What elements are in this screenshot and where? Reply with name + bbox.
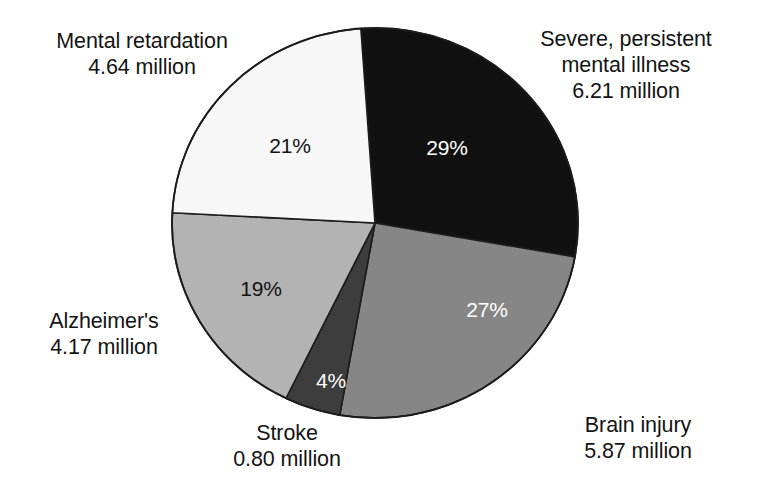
callout-mental-retardation-value: 4.64 million (14, 54, 270, 80)
slice-percent-mental-retardation: 21% (269, 134, 310, 158)
slice-percent-brain-injury: 27% (466, 298, 507, 322)
callout-severe-mental-illness-value: 6.21 million (500, 78, 752, 104)
callout-mental-retardation-name: Mental retardation (14, 28, 270, 54)
pie-chart: 29% 27% 4% 19% 21% Mental retardation 4.… (0, 0, 758, 492)
callout-mental-retardation: Mental retardation 4.64 million (14, 28, 270, 80)
callout-alzheimers-name: Alzheimer's (6, 308, 202, 334)
callout-stroke-name: Stroke (182, 420, 392, 446)
slice-percent-alzheimers: 19% (240, 277, 281, 301)
callout-alzheimers: Alzheimer's 4.17 million (6, 308, 202, 360)
slice-percent-stroke: 4% (316, 369, 346, 393)
pie-slice-brain-injury (340, 223, 575, 418)
slice-percent-severe-mental-illness: 29% (426, 136, 467, 160)
callout-stroke: Stroke 0.80 million (182, 420, 392, 472)
callout-severe-mental-illness: Severe, persistent mental illness 6.21 m… (500, 26, 752, 105)
callout-stroke-value: 0.80 million (182, 446, 392, 472)
callout-alzheimers-value: 4.17 million (6, 334, 202, 360)
callout-brain-injury-value: 5.87 million (530, 438, 746, 464)
callout-brain-injury-name: Brain injury (530, 412, 746, 438)
callout-severe-mental-illness-name-1: Severe, persistent (500, 26, 752, 52)
callout-brain-injury: Brain injury 5.87 million (530, 412, 746, 464)
callout-severe-mental-illness-name-2: mental illness (500, 52, 752, 78)
